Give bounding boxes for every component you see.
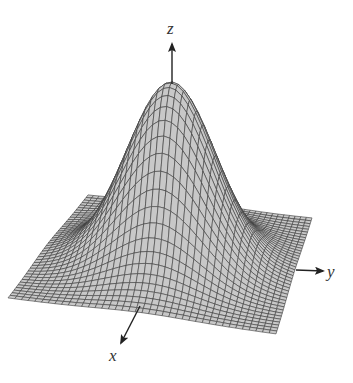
x-axis-label: x	[108, 346, 117, 365]
y-axis-arrow	[296, 270, 323, 271]
z-axis-label: z	[166, 19, 174, 38]
surface-mesh	[8, 82, 312, 334]
gaussian-surface-figure: z y x	[0, 0, 353, 383]
y-axis-label: y	[325, 262, 335, 281]
